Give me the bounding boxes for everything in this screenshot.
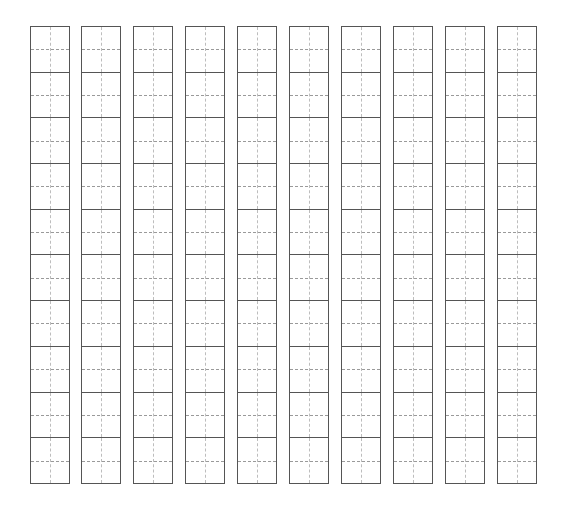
- grid-column: [497, 26, 537, 484]
- grid-cell: [238, 254, 276, 300]
- horizontal-guide-line: [186, 186, 224, 187]
- horizontal-guide-line: [290, 415, 328, 416]
- grid-cell: [238, 209, 276, 255]
- grid-cell: [82, 209, 120, 255]
- horizontal-guide-line: [446, 186, 484, 187]
- horizontal-guide-line: [342, 415, 380, 416]
- grid-cell: [446, 392, 484, 438]
- grid-cell: [290, 209, 328, 255]
- grid-cell: [134, 392, 172, 438]
- grid-cell: [186, 163, 224, 209]
- grid-cell: [290, 392, 328, 438]
- grid-cell: [394, 392, 432, 438]
- grid-cell: [238, 437, 276, 484]
- horizontal-guide-line: [186, 49, 224, 50]
- grid-cell: [186, 209, 224, 255]
- grid-cell: [186, 72, 224, 118]
- horizontal-guide-line: [31, 186, 69, 187]
- horizontal-guide-line: [186, 232, 224, 233]
- grid-cell: [394, 26, 432, 72]
- horizontal-guide-line: [186, 461, 224, 462]
- grid-cell: [134, 163, 172, 209]
- horizontal-guide-line: [498, 141, 536, 142]
- practice-grid-sheet: [0, 0, 564, 517]
- grid-cell: [446, 26, 484, 72]
- horizontal-guide-line: [498, 49, 536, 50]
- grid-cell: [446, 209, 484, 255]
- horizontal-guide-line: [446, 141, 484, 142]
- grid-cell: [134, 117, 172, 163]
- grid-cell: [186, 26, 224, 72]
- grid-cell: [82, 346, 120, 392]
- horizontal-guide-line: [342, 369, 380, 370]
- horizontal-guide-line: [498, 186, 536, 187]
- grid-cell: [31, 117, 69, 163]
- horizontal-guide-line: [134, 415, 172, 416]
- grid-cell: [238, 392, 276, 438]
- horizontal-guide-line: [238, 141, 276, 142]
- grid-cell: [498, 26, 536, 72]
- grid-cell: [82, 72, 120, 118]
- horizontal-guide-line: [394, 369, 432, 370]
- grid-cell: [394, 254, 432, 300]
- horizontal-guide-line: [82, 415, 120, 416]
- grid-cell: [134, 72, 172, 118]
- grid-cell: [82, 437, 120, 484]
- horizontal-guide-line: [238, 323, 276, 324]
- grid-cell: [342, 346, 380, 392]
- horizontal-guide-line: [31, 278, 69, 279]
- horizontal-guide-line: [498, 323, 536, 324]
- grid-cell: [342, 300, 380, 346]
- grid-cell: [82, 26, 120, 72]
- horizontal-guide-line: [446, 415, 484, 416]
- horizontal-guide-line: [394, 95, 432, 96]
- grid-column: [185, 26, 225, 484]
- horizontal-guide-line: [446, 369, 484, 370]
- grid-cell: [394, 437, 432, 484]
- horizontal-guide-line: [186, 141, 224, 142]
- horizontal-guide-line: [134, 49, 172, 50]
- grid-cell: [342, 26, 380, 72]
- horizontal-guide-line: [31, 461, 69, 462]
- grid-cell: [342, 117, 380, 163]
- horizontal-guide-line: [186, 323, 224, 324]
- horizontal-guide-line: [134, 141, 172, 142]
- horizontal-guide-line: [186, 278, 224, 279]
- grid-cell: [446, 72, 484, 118]
- grid-column: [393, 26, 433, 484]
- horizontal-guide-line: [134, 186, 172, 187]
- grid-column: [81, 26, 121, 484]
- horizontal-guide-line: [290, 141, 328, 142]
- grid-cell: [134, 209, 172, 255]
- grid-cell: [290, 300, 328, 346]
- grid-cell: [394, 117, 432, 163]
- grid-cell: [446, 254, 484, 300]
- grid-cell: [342, 392, 380, 438]
- grid-column: [30, 26, 70, 484]
- grid-cell: [31, 163, 69, 209]
- grid-cell: [498, 72, 536, 118]
- grid-cell: [31, 346, 69, 392]
- grid-cell: [238, 300, 276, 346]
- horizontal-guide-line: [394, 141, 432, 142]
- horizontal-guide-line: [238, 369, 276, 370]
- grid-cell: [31, 392, 69, 438]
- horizontal-guide-line: [290, 369, 328, 370]
- grid-cell: [31, 437, 69, 484]
- grid-cell: [290, 437, 328, 484]
- horizontal-guide-line: [394, 461, 432, 462]
- grid-cell: [498, 254, 536, 300]
- horizontal-guide-line: [82, 186, 120, 187]
- horizontal-guide-line: [394, 278, 432, 279]
- horizontal-guide-line: [31, 232, 69, 233]
- grid-cell: [82, 300, 120, 346]
- grid-cell: [290, 346, 328, 392]
- horizontal-guide-line: [290, 278, 328, 279]
- horizontal-guide-line: [82, 141, 120, 142]
- horizontal-guide-line: [446, 232, 484, 233]
- horizontal-guide-line: [498, 369, 536, 370]
- grid-cell: [31, 254, 69, 300]
- grid-cell: [31, 300, 69, 346]
- horizontal-guide-line: [31, 95, 69, 96]
- grid-cell: [446, 163, 484, 209]
